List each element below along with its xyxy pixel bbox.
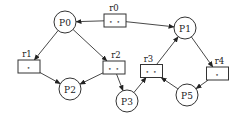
edge-r2-to-p2 (80, 73, 103, 84)
place-p5: P5 (176, 84, 198, 106)
edge-p0-to-r2 (73, 29, 107, 61)
place-label: P0 (59, 18, 71, 28)
edge-r0-to-p1 (126, 22, 174, 27)
transition-r4: •r4 (207, 56, 229, 80)
token-dots: • (215, 71, 220, 78)
place-label: P5 (181, 91, 193, 101)
token-dots: • • (109, 18, 121, 25)
transition-r0: • •r0 (104, 3, 126, 27)
place-label: P2 (64, 85, 76, 95)
place-p2: P2 (59, 78, 81, 100)
edge-r0-to-p0 (76, 21, 104, 22)
edge-p3-to-r3 (134, 78, 146, 93)
edge-r2-to-p3 (117, 74, 123, 91)
transition-label: r3 (144, 54, 153, 64)
transition-label: r0 (109, 3, 118, 13)
place-label: P3 (121, 97, 133, 107)
edge-r3-to-p1 (157, 37, 179, 65)
transition-r2: • •r2 (103, 50, 125, 74)
edge-p1-to-r4 (191, 37, 212, 67)
token-dots: • • (108, 65, 120, 72)
edge-p5-to-r3 (161, 78, 178, 89)
place-label: P1 (179, 24, 191, 34)
transition-r3: • •r3 (141, 54, 163, 78)
edge-r4-to-p5 (196, 80, 208, 89)
petri-net-diagram: P0P1P2P3P5• •r0•r1• •r2• •r3•r4 (0, 0, 242, 123)
place-p1: P1 (174, 17, 196, 39)
nodes: P0P1P2P3P5• •r0•r1• •r2• •r3•r4 (18, 3, 229, 112)
edge-p0-to-r1 (34, 31, 58, 60)
token-dots: • • (146, 68, 158, 75)
transition-label: r4 (215, 56, 224, 66)
place-p0: P0 (54, 11, 76, 33)
transition-label: r1 (22, 49, 31, 59)
token-dots: • (27, 64, 32, 71)
place-p3: P3 (116, 90, 138, 112)
edge-r1-to-p2 (40, 73, 60, 84)
transition-label: r2 (111, 50, 120, 60)
transition-r1: •r1 (18, 49, 40, 73)
